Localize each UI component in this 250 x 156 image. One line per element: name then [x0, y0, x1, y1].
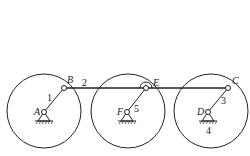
- linkage-diagram: A B 2 1 F 5 E C 3 D 4: [0, 0, 250, 156]
- label-a: A: [33, 106, 41, 117]
- joint-b: [62, 86, 67, 91]
- label-f: F: [116, 106, 124, 117]
- label-link-5: 5: [134, 103, 139, 114]
- label-c: C: [232, 75, 239, 86]
- label-b: B: [67, 74, 73, 85]
- joint-d: [206, 110, 211, 115]
- label-link-3: 3: [221, 95, 226, 106]
- joint-a: [42, 110, 47, 115]
- label-e: E: [152, 77, 159, 88]
- joint-e: [144, 86, 149, 91]
- joint-c: [226, 86, 231, 91]
- label-link-4: 4: [206, 125, 211, 136]
- joint-f: [125, 110, 130, 115]
- label-link-1: 1: [47, 92, 52, 103]
- label-d: D: [196, 106, 205, 117]
- label-link-2: 2: [82, 77, 87, 88]
